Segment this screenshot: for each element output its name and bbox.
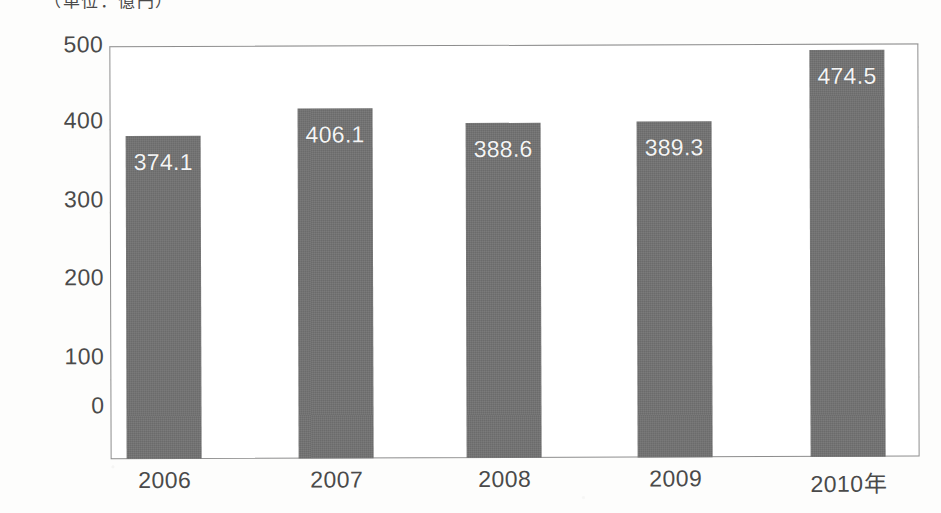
y-tick-label: 200 (8, 264, 104, 291)
x-label-2010: 2010年 (774, 465, 924, 499)
bar-2007[interactable]: 406.1 (298, 108, 374, 458)
bar-2010[interactable]: 474.5 (809, 50, 885, 457)
bar-chart: 500 400 300 200 100 0 374.1 406.1 388.6 (0, 0, 941, 513)
y-tick-label: 400 (8, 107, 104, 134)
y-tick-label: 100 (8, 343, 104, 370)
bars-layer: 374.1 406.1 388.6 389.3 474.5 (109, 44, 919, 460)
x-label-2009: 2009 (601, 465, 751, 492)
y-tick-label: 300 (8, 186, 104, 213)
bar-value-label: 389.3 (637, 134, 712, 161)
y-tick-label: 0 (8, 392, 104, 419)
bar-2009[interactable]: 389.3 (637, 121, 713, 457)
x-axis-labels: 2006 2007 2008 2009 2010年 (111, 465, 920, 508)
bar-value-label: 388.6 (466, 136, 541, 163)
chart-page: （単位：億円） 500 400 300 200 100 0 (0, 0, 941, 513)
x-label-2006: 2006 (90, 467, 240, 494)
bar-2006[interactable]: 374.1 (126, 136, 202, 459)
x-label-2007: 2007 (262, 466, 412, 493)
bar-2008[interactable]: 388.6 (466, 123, 542, 458)
bar-value-label: 374.1 (126, 149, 201, 176)
bar-value-label: 406.1 (298, 121, 373, 148)
bar-value-label: 474.5 (809, 63, 884, 90)
y-tick-label: 500 (7, 31, 103, 58)
x-label-2008: 2008 (430, 466, 580, 493)
